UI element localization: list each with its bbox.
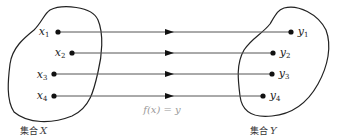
domain-points	[51, 29, 74, 98]
arrowhead-icon	[165, 50, 174, 56]
point-y2	[270, 50, 275, 55]
set-x-boundary	[8, 7, 102, 122]
function-label: f(x) = y	[142, 104, 181, 115]
arrowhead-icon	[165, 71, 174, 77]
set-y-boundary	[238, 7, 329, 116]
label-x4: x4	[37, 89, 48, 103]
arrowhead-icon	[165, 93, 174, 99]
set-y-caption: 集合Y	[250, 125, 278, 136]
point-x4	[51, 93, 56, 98]
arrowheads	[165, 29, 174, 99]
mapping-arrows	[54, 32, 291, 96]
set-x-caption: 集合X	[20, 125, 48, 136]
codomain-points	[260, 29, 293, 98]
label-x2: x2	[55, 46, 66, 60]
label-x3: x3	[37, 68, 48, 82]
point-y3	[269, 71, 274, 76]
point-x1	[55, 29, 60, 34]
label-y3: y3	[278, 67, 290, 81]
label-y4: y4	[269, 89, 281, 103]
point-y1	[288, 29, 293, 34]
label-x1: x1	[39, 25, 50, 39]
point-x3	[51, 71, 56, 76]
arrowhead-icon	[165, 29, 174, 35]
point-y4	[260, 93, 265, 98]
label-y1: y1	[297, 25, 309, 39]
point-x2	[69, 50, 74, 55]
label-y2: y2	[279, 46, 291, 60]
function-mapping-diagram: x1 x2 x3 x4 y1 y2 y3 y4 f(x) = y 集合X 集合Y	[0, 0, 337, 140]
